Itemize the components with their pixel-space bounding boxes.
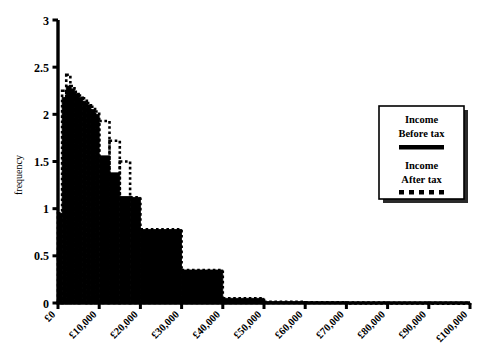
bar-before-tax xyxy=(182,270,223,303)
y-axis-tick-label: 0 xyxy=(43,297,49,311)
y-axis-tick-label: 2 xyxy=(43,108,49,122)
bar-before-tax xyxy=(70,89,74,303)
bar-before-tax xyxy=(95,114,99,303)
y-axis-tick-label: 3 xyxy=(43,14,49,28)
bar-before-tax xyxy=(66,86,70,303)
bar-before-tax xyxy=(83,101,87,303)
y-axis-title: frequency xyxy=(13,155,24,195)
y-axis-tick-label: 1.5 xyxy=(34,155,49,169)
bar-before-tax xyxy=(110,173,120,303)
bar-before-tax xyxy=(140,229,181,303)
bar-before-tax xyxy=(120,196,130,303)
bar-before-tax xyxy=(79,97,83,303)
chart-svg: 00.511.522.53 £0£10,000£20,000£30,000£40… xyxy=(0,0,487,361)
chart-legend: Income Before tax Income After tax xyxy=(379,106,468,203)
bar-before-tax xyxy=(91,110,95,303)
y-axis-tick-label: 0.5 xyxy=(34,249,49,263)
bar-before-tax xyxy=(87,105,91,303)
legend-entry-0-line2: Before tax xyxy=(398,128,445,139)
bar-before-tax xyxy=(99,156,109,303)
legend-entry-0-line1: Income xyxy=(405,114,439,125)
legend-entry-1-line1: Income xyxy=(405,160,439,171)
bar-before-tax xyxy=(130,197,140,303)
y-axis-tick-label: 2.5 xyxy=(34,61,49,75)
y-axis-tick-label: 1 xyxy=(43,202,49,216)
bar-before-tax xyxy=(74,94,78,303)
legend-solid-line-swatch xyxy=(399,145,444,150)
bar-before-tax xyxy=(62,97,66,303)
legend-entry-1-line2: After tax xyxy=(401,174,442,185)
income-distribution-chart: 00.511.522.53 £0£10,000£20,000£30,000£40… xyxy=(0,0,487,361)
